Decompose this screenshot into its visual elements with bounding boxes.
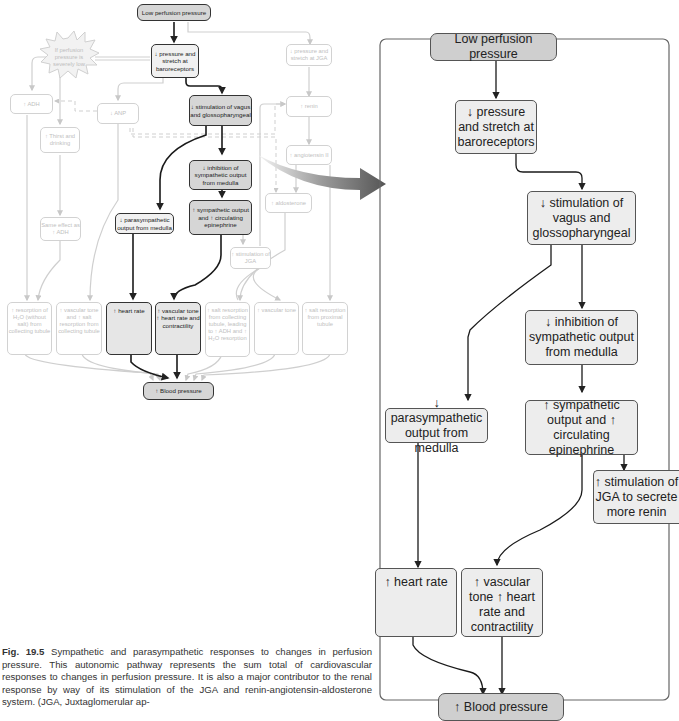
node-label: Low perfusion pressure xyxy=(431,32,556,62)
detail-inhibition-node: ↓ inhibition of sympathetic output from … xyxy=(525,310,638,365)
overview-effect-vascular-salt: ↑ vascular tone and ↑ salt resorption fr… xyxy=(56,302,102,355)
overview-jga-stretch-node: ↓ pressure and stretch at JGA xyxy=(286,44,332,66)
node-label: ↑ sympathetic output and ↑ circulating e… xyxy=(526,398,637,458)
node-label: ↑ Thirst and drinking xyxy=(41,133,79,147)
node-label: ↑ stimulation of JGA xyxy=(231,251,270,265)
overview-blood-pressure-node: ↑ Blood pressure xyxy=(143,382,214,400)
overview-same-effect-node: Same effect as ↑ ADH xyxy=(40,217,81,241)
detail-baroreceptors-node: ↓ pressure and stretch at baroreceptors xyxy=(455,100,537,154)
overview-renin-node: ↑ renin xyxy=(286,96,332,117)
node-label: ↑ salt resorption from proximal tubule xyxy=(303,307,347,328)
node-label: ↑ Blood pressure xyxy=(155,387,201,394)
node-label: ↑ vascular tone ↑ heart rate and contrac… xyxy=(156,307,200,329)
detail-jga-node: ↑ stimulation of JGA to secrete more ren… xyxy=(593,470,679,524)
overview-start-node: Low perfusion pressure xyxy=(137,4,211,21)
node-label: ↑ sympathetic output and ↑ circulating e… xyxy=(190,206,251,228)
overview-jga-stimulation-node: ↑ stimulation of JGA xyxy=(230,247,271,269)
detail-vagus-node: ↓ stimulation of vagus and glossopharyng… xyxy=(527,191,636,245)
node-label: ↑ aldosterone xyxy=(271,200,306,207)
node-label: ↑ angiotensin II xyxy=(290,152,329,159)
overview-adh-node: ↑ ADH xyxy=(10,94,53,114)
detail-vascular-node: ↑ vascular tone ↑ heart rate and contrac… xyxy=(461,568,543,637)
overview-aldosterone-node: ↑ aldosterone xyxy=(265,193,312,213)
node-label: ↓ pressure and stretch at baroreceptors xyxy=(152,50,198,72)
figure-number: Fig. 19.5 xyxy=(2,646,44,657)
overview-vagus-node: ↓ stimulation of vagus and glossopharyng… xyxy=(189,95,252,126)
overview-thirst-node: ↑ Thirst and drinking xyxy=(40,127,80,153)
node-label: ↓ pressure and stretch at JGA xyxy=(287,48,331,62)
node-label: ↑ ADH xyxy=(23,101,39,108)
node-label: Low perfusion pressure xyxy=(142,9,206,16)
overview-inhibition-node: ↓ inhibition of sympathetic output from … xyxy=(189,160,252,190)
node-label: ↑ vascular tone and ↑ salt resorption fr… xyxy=(57,307,101,335)
node-label: ↑ heart rate xyxy=(113,307,144,314)
overview-effect-water-resorption: ↑ resorption of H₂O (without salt) from … xyxy=(7,302,52,355)
node-label: ↓ pressure and stretch at baroreceptors xyxy=(456,105,536,150)
overview-effect-heart-rate: ↑ heart rate xyxy=(106,302,152,355)
figure-caption: Fig. 19.5 Sympathetic and parasympatheti… xyxy=(2,646,372,709)
overview-angiotensin-node: ↑ angiotensin II xyxy=(286,145,332,165)
node-label: ↓ parasympathetic output from medulla xyxy=(386,396,487,456)
node-label: ↑ salt resorption from collecting tubule… xyxy=(206,307,249,342)
overview-anp-node: ↓ ANP xyxy=(97,103,139,124)
overview-baroreceptors-node: ↓ pressure and stretch at baroreceptors xyxy=(151,44,199,78)
detail-blood-pressure-node: ↑ Blood pressure xyxy=(438,693,564,721)
overview-effect-salt-proximal: ↑ salt resorption from proximal tubule xyxy=(302,302,348,355)
overview-burst-label: If perfusion pressure is severely low xyxy=(48,47,90,68)
detail-parasympathetic-node: ↓ parasympathetic output from medulla xyxy=(385,408,488,443)
overview-effect-salt-collecting: ↑ salt resorption from collecting tubule… xyxy=(205,302,250,357)
node-label: ↓ stimulation of vagus and glossopharyng… xyxy=(190,103,251,118)
detail-start-node: Low perfusion pressure xyxy=(430,33,557,61)
node-label: ↑ resorption of H₂O (without salt) from … xyxy=(8,307,51,335)
detail-heart-rate-node: ↑ heart rate xyxy=(375,568,457,637)
overview-sympathetic-node: ↑ sympathetic output and ↑ circulating e… xyxy=(189,200,252,235)
node-label: ↓ ANP xyxy=(110,110,126,117)
node-label: ↑ vascular tone ↑ heart rate and contrac… xyxy=(462,575,542,635)
node-label: ↓ inhibition of sympathetic output from … xyxy=(526,315,637,360)
node-label: ↑ vascular tone xyxy=(257,307,296,314)
overview-effect-vascular-tone: ↑ vascular tone xyxy=(254,302,299,355)
overview-effect-vascular-heart: ↑ vascular tone ↑ heart rate and contrac… xyxy=(155,302,201,355)
node-label: ↓ parasympathetic output from medulla xyxy=(116,216,173,231)
node-label: Same effect as ↑ ADH xyxy=(41,222,80,236)
node-label: ↑ Blood pressure xyxy=(454,700,548,715)
caption-text: Sympathetic and parasympathetic response… xyxy=(2,646,372,707)
starburst-shape xyxy=(0,0,120,90)
node-label: ↑ heart rate xyxy=(384,575,447,590)
node-label: ↓ inhibition of sympathetic output from … xyxy=(190,164,251,186)
node-label: ↓ stimulation of vagus and glossopharyng… xyxy=(528,196,635,241)
node-label: ↑ stimulation of JGA to secrete more ren… xyxy=(594,475,679,520)
detail-sympathetic-node: ↑ sympathetic output and ↑ circulating e… xyxy=(525,400,638,455)
overview-parasympathetic-node: ↓ parasympathetic output from medulla xyxy=(115,213,174,234)
node-label: ↑ renin xyxy=(300,103,317,110)
